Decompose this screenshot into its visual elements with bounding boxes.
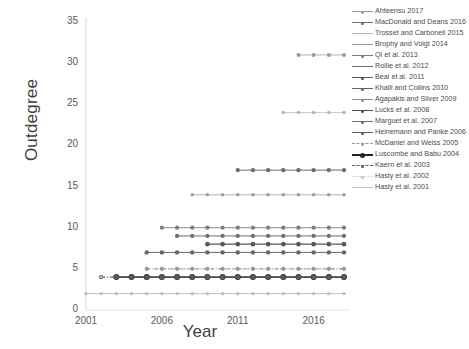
series-marker xyxy=(235,242,240,247)
series-16 xyxy=(85,292,346,295)
legend-label: Qi et al. 2013 xyxy=(375,50,469,60)
series-marker xyxy=(251,267,255,271)
series-marker xyxy=(327,234,331,238)
series-marker xyxy=(190,267,194,271)
series-marker xyxy=(342,234,346,238)
series-marker xyxy=(266,275,270,279)
series-marker xyxy=(312,53,316,57)
series-marker xyxy=(281,234,285,238)
series-0 xyxy=(296,53,346,57)
series-marker xyxy=(312,234,316,238)
series-marker xyxy=(220,275,224,279)
legend-item[interactable]: Marguet et al. 2007 xyxy=(352,116,469,126)
series-marker xyxy=(236,234,240,238)
legend-item[interactable]: Kaern et al. 2003 xyxy=(352,160,469,170)
series-marker xyxy=(266,234,270,238)
series-marker xyxy=(296,234,300,238)
series-marker xyxy=(311,250,315,254)
series-marker xyxy=(297,193,301,197)
legend-item[interactable]: Hasty et al. 2002 xyxy=(352,171,469,181)
legend-label: Hasty et al. 2002 xyxy=(375,171,469,181)
series-marker xyxy=(85,292,88,295)
legend-label: Lucks et al. 2008 xyxy=(375,105,469,115)
series-marker xyxy=(206,267,210,271)
legend-item[interactable]: Qi et al. 2013 xyxy=(352,50,469,60)
legend-item[interactable]: McDaniel and Weiss 2005 xyxy=(352,138,469,148)
series-marker xyxy=(145,292,148,295)
series-marker xyxy=(342,53,346,57)
legend-label: Hasty et al. 2001 xyxy=(375,182,469,192)
series-3 xyxy=(190,193,345,197)
series-marker xyxy=(160,292,163,295)
legend-marker-icon xyxy=(352,73,373,82)
legend-item[interactable]: Luscombe and Babu 2004 xyxy=(352,149,469,159)
series-marker xyxy=(342,242,347,247)
legend-marker-icon xyxy=(352,51,373,60)
series-marker xyxy=(327,226,331,230)
legend-item[interactable]: Hasty et al. 2001 xyxy=(352,182,469,192)
series-marker xyxy=(191,292,194,295)
series-marker xyxy=(266,226,270,230)
legend-marker-icon xyxy=(352,128,373,137)
series-marker xyxy=(190,193,194,197)
series-marker xyxy=(251,275,255,279)
series-marker xyxy=(145,275,149,279)
series-marker xyxy=(281,111,285,115)
series-marker xyxy=(266,193,270,197)
legend-marker-icon xyxy=(352,18,373,27)
legend-item[interactable]: MacDonald and Deans 2016 xyxy=(352,17,469,27)
legend-marker-icon xyxy=(352,84,373,93)
series-marker xyxy=(312,111,316,115)
series-marker xyxy=(129,275,133,279)
legend-label: Rollie et al. 2012 xyxy=(375,61,469,71)
series-marker xyxy=(342,193,346,197)
legend-item[interactable]: Brophy and Voigt 2014 xyxy=(352,39,469,49)
legend-item[interactable]: Rollie et al. 2012 xyxy=(352,61,469,71)
series-marker xyxy=(266,267,270,271)
legend-item[interactable]: Heinemann and Panke 2006 xyxy=(352,127,469,137)
series-marker xyxy=(327,168,331,172)
series-marker xyxy=(297,292,300,295)
series-marker xyxy=(311,168,315,172)
legend-marker-icon xyxy=(352,95,373,104)
series-marker xyxy=(145,250,149,254)
series-marker xyxy=(342,275,346,279)
legend-item[interactable]: Khalil and Collins 2010 xyxy=(352,83,469,93)
series-marker xyxy=(160,226,164,230)
legend-label: Trosset and Carbonell 2015 xyxy=(375,28,469,38)
series-marker xyxy=(236,250,240,254)
series-marker xyxy=(327,250,331,254)
legend-item[interactable]: Agapakis and Silver 2009 xyxy=(352,94,469,104)
series-marker xyxy=(311,275,315,279)
series-marker xyxy=(281,267,285,271)
series-marker xyxy=(190,275,194,279)
legend-item[interactable]: Lucks et al. 2008 xyxy=(352,105,469,115)
legend-item[interactable]: Ahteensu 2017 xyxy=(352,6,469,16)
series-marker xyxy=(327,275,331,279)
series-marker xyxy=(251,250,255,254)
series-marker xyxy=(206,292,209,295)
series-marker xyxy=(100,292,103,295)
series-marker xyxy=(100,276,103,279)
series-marker xyxy=(115,292,118,295)
series-marker xyxy=(236,292,239,295)
series-marker xyxy=(311,242,316,247)
legend-item[interactable]: Beal et al. 2011 xyxy=(352,72,469,82)
series-6 xyxy=(205,242,346,247)
series-marker xyxy=(327,292,330,295)
series-marker xyxy=(267,292,270,295)
series-marker xyxy=(206,193,210,197)
series-marker xyxy=(220,234,224,238)
series-marker xyxy=(296,242,301,247)
series-marker xyxy=(175,250,179,254)
legend-marker-icon xyxy=(352,172,373,181)
legend-marker-icon xyxy=(352,139,373,148)
series-marker xyxy=(343,292,346,295)
series-marker xyxy=(252,292,255,295)
series-marker xyxy=(220,250,224,254)
series-marker xyxy=(312,226,316,230)
series-marker xyxy=(175,275,179,279)
series-marker xyxy=(342,168,346,172)
outdegree-by-year-chart: Outdegree Year 05101520253035 2001200620… xyxy=(0,0,469,349)
legend-item[interactable]: Trosset and Carbonell 2015 xyxy=(352,28,469,38)
